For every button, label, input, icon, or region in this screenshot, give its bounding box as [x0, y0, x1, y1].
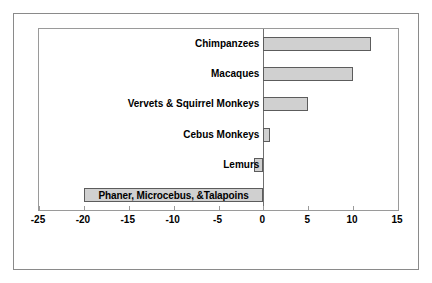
x-tick-label: -10	[165, 214, 179, 225]
x-tick-label: -25	[31, 214, 45, 225]
x-tick-15	[398, 206, 399, 210]
x-tick-label: -15	[121, 214, 135, 225]
bar-category-label: Chimpanzees	[195, 37, 259, 51]
x-tick-label: 15	[391, 214, 402, 225]
x-tick-10	[353, 206, 354, 210]
x-tick-label: 10	[347, 214, 358, 225]
bar	[263, 67, 353, 81]
x-tick-neg5	[219, 206, 220, 210]
bar-category-label: Phaner, Microcebus, &Talapoins	[84, 188, 264, 202]
bar	[263, 37, 371, 51]
x-tick-5	[308, 206, 309, 210]
x-tick-0	[263, 206, 264, 210]
zero-axis-line	[263, 29, 264, 210]
x-tick-label: 0	[260, 214, 266, 225]
x-tick-neg10	[174, 206, 175, 210]
bar-category-label: Cebus Monkeys	[183, 128, 259, 142]
x-tick-label: 5	[304, 214, 310, 225]
x-axis-tick-labels: -25-20-15-10-5051015	[38, 214, 399, 230]
bar-category-label: Macaques	[211, 67, 259, 81]
x-tick-neg20	[84, 206, 85, 210]
bar	[263, 128, 269, 142]
bar-category-label: Vervets & Squirrel Monkeys	[128, 97, 260, 111]
bar	[263, 97, 308, 111]
x-tick-label: -5	[213, 214, 222, 225]
chart-frame: ChimpanzeesMacaquesVervets & Squirrel Mo…	[13, 13, 419, 270]
bar-category-label: Lemurs	[223, 158, 259, 172]
plot-area: ChimpanzeesMacaquesVervets & Squirrel Mo…	[38, 28, 399, 211]
x-tick-neg15	[129, 206, 130, 210]
x-tick-neg25	[39, 206, 40, 210]
x-tick-label: -20	[76, 214, 90, 225]
